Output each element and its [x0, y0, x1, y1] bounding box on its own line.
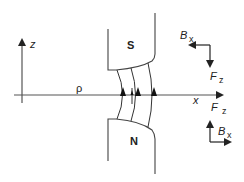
north-pole-label: N [130, 135, 138, 147]
bx-sub-lower: x [227, 130, 232, 140]
fz-label-upper: F [210, 70, 218, 82]
arrow-up-icon [131, 90, 134, 95]
vector-diagram-upper: B x F z [180, 29, 224, 85]
z-axis-label: z [29, 38, 36, 50]
fz-sub-lower: z [222, 106, 227, 116]
fz-label-lower: F [211, 101, 219, 113]
bx-label-lower: B [218, 125, 225, 137]
north-pole: N [108, 119, 155, 174]
rho-label: ρ [76, 82, 82, 94]
magnet-diagram: z x ρ S N B x F z F [0, 0, 244, 182]
x-axis: x ρ [14, 82, 222, 106]
x-axis-label: x [192, 94, 199, 106]
arrow-up-icon [120, 87, 126, 96]
south-pole: S [108, 13, 155, 70]
bx-sub-upper: x [189, 34, 194, 44]
south-pole-label: S [127, 39, 134, 51]
z-axis: z [22, 38, 36, 103]
vector-diagram-lower: F z B x [210, 101, 232, 142]
fz-sub-upper: z [219, 75, 224, 85]
bx-label-upper: B [180, 29, 187, 41]
